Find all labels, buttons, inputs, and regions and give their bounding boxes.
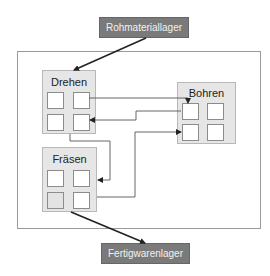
- flow-connectors: [0, 0, 270, 276]
- arrow-bohren-to-drehen: [90, 111, 181, 120]
- arrow-fraesen-to-finished: [71, 212, 145, 243]
- arrow-drehen-to-fraesen: [70, 134, 110, 180]
- arrow-drehen-to-bohren: [89, 98, 188, 103]
- arrow-raw-to-drehen: [74, 38, 146, 70]
